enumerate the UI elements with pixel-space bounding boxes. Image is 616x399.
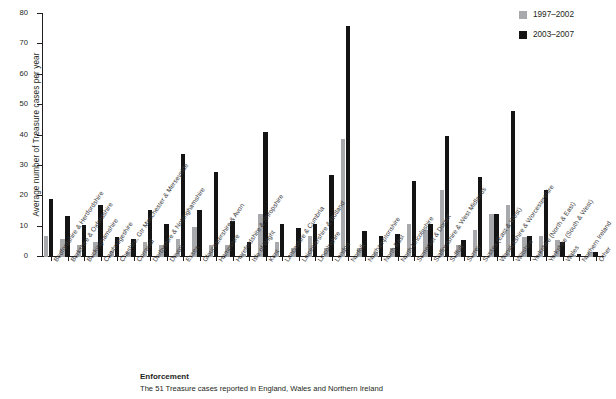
y-axis-tick-label: 30: [20, 161, 28, 169]
legend-label: 1997–2002: [533, 9, 574, 20]
y-axis-tick-label: 50: [20, 101, 28, 109]
bar-group: [159, 14, 176, 257]
footer-text-block: Enforcement The 51 Treasure cases report…: [140, 372, 610, 394]
x-axis-category-labels: Bedfordshire & HertfordshireBerkshire & …: [42, 259, 616, 369]
y-axis-tick-label: 10: [20, 222, 28, 230]
bar-group: [373, 14, 390, 257]
footer-heading: Enforcement: [140, 372, 610, 382]
legend-label: 2003–2007: [533, 29, 574, 40]
bar: [341, 139, 346, 257]
y-axis-tick-label: 20: [20, 192, 28, 200]
bar-group: [538, 14, 555, 257]
bar: [49, 199, 54, 257]
bar-group: [43, 14, 60, 257]
y-axis-tick-label: 80: [20, 9, 28, 17]
bar-group: [274, 14, 291, 257]
bar-group: [357, 14, 374, 257]
bar-group: [208, 14, 225, 257]
bar-group: [60, 14, 77, 257]
bar-group: [588, 14, 605, 257]
y-axis-tick-label: 60: [20, 70, 28, 78]
legend-swatch-icon: [519, 11, 527, 19]
y-axis-tick-label: 70: [20, 40, 28, 48]
footer-body: The 51 Treasure cases reported in Englan…: [140, 384, 610, 394]
bar-group: [192, 14, 209, 257]
bar: [280, 224, 285, 257]
bar-group: [291, 14, 308, 257]
treasure-cases-bar-chart: Average number of Treasure cases per yea…: [0, 0, 616, 399]
bar: [346, 26, 351, 257]
legend-swatch-icon: [519, 31, 527, 39]
y-axis-tick-label: 0: [24, 252, 28, 260]
bar-group: [340, 14, 357, 257]
bar: [44, 236, 49, 257]
bar-group: [472, 14, 489, 257]
y-axis-tick-label: 40: [20, 131, 28, 139]
bar-group: [489, 14, 506, 257]
bar-group: [241, 14, 258, 257]
bar-group: [406, 14, 423, 257]
